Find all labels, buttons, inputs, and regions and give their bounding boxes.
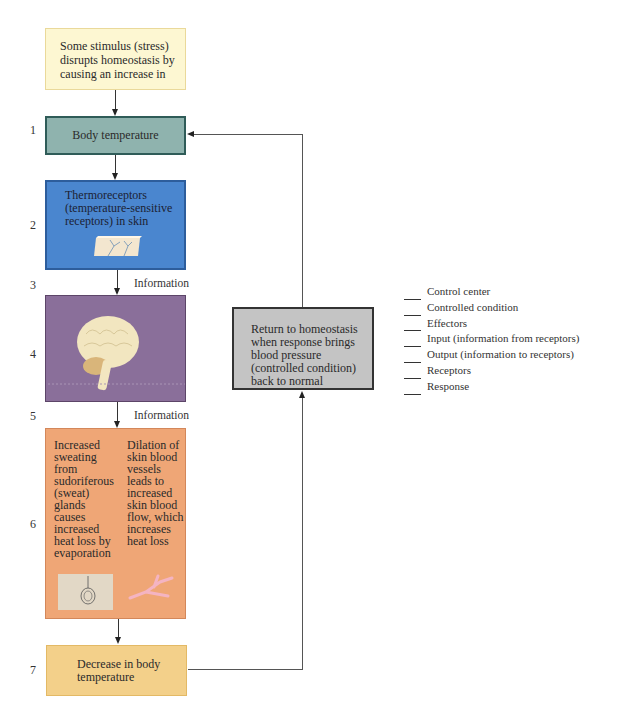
answer-blank[interactable] — [404, 289, 421, 300]
step-number-6: 6 — [30, 517, 36, 532]
homeostasis-text: Return to homeostasis when response brin… — [251, 322, 358, 388]
brain-icon — [46, 296, 187, 403]
arrow-down-icon — [114, 421, 120, 428]
answer-blank[interactable] — [404, 368, 421, 379]
labeling-legend: Control center Controlled condition Effe… — [404, 284, 579, 395]
controlled-condition-box: Body temperature — [45, 116, 186, 155]
connector-line — [115, 90, 116, 110]
step-number-3: 3 — [30, 278, 36, 293]
step-number-4: 4 — [30, 347, 36, 362]
sweat-gland-icon — [58, 574, 113, 610]
answer-blank[interactable] — [404, 305, 421, 316]
blood-vessel-icon — [124, 574, 179, 610]
arrow-up-icon — [299, 391, 305, 398]
step-number-1: 1 — [30, 123, 36, 138]
feedback-line-bottom — [188, 669, 303, 670]
information-label-output: Information — [134, 409, 189, 421]
decrease-label: Decrease in body temperature — [77, 658, 167, 684]
connector-line — [117, 270, 118, 289]
feedback-line-top — [194, 134, 303, 135]
arrow-down-icon — [112, 173, 118, 180]
legend-item[interactable]: Control center — [404, 284, 579, 300]
feedback-line-upper — [302, 134, 303, 307]
step-number-7: 7 — [30, 663, 36, 678]
sweating-text: Increased sweating from sudoriferous (sw… — [54, 439, 118, 559]
feedback-line-lower — [302, 398, 303, 670]
control-center-box — [45, 295, 186, 402]
arrow-down-icon — [115, 637, 121, 644]
arrow-left-icon — [187, 131, 194, 137]
stimulus-text: Some stimulus (stress) disrupts homeosta… — [60, 39, 175, 81]
legend-item[interactable]: Response — [404, 379, 579, 395]
skin-block-icon — [90, 234, 144, 260]
answer-blank[interactable] — [404, 336, 421, 347]
receptors-label: Thermoreceptors (temperature-sensitive r… — [65, 189, 175, 228]
body-temperature-label: Body temperature — [72, 128, 158, 143]
legend-item[interactable]: Output (information to receptors) — [404, 347, 579, 363]
arrow-down-icon — [112, 109, 118, 116]
receptors-box: Thermoreceptors (temperature-sensitive r… — [45, 180, 186, 270]
vasodilation-text: Dilation of skin blood vessels leads to … — [127, 439, 191, 547]
legend-item[interactable]: Effectors — [404, 316, 579, 332]
answer-blank[interactable] — [404, 384, 421, 395]
arrow-down-icon — [114, 288, 120, 295]
connector-line — [115, 155, 116, 174]
legend-item[interactable]: Controlled condition — [404, 300, 579, 316]
answer-blank[interactable] — [404, 352, 421, 363]
response-box: Decrease in body temperature — [46, 645, 187, 696]
legend-item[interactable]: Receptors — [404, 363, 579, 379]
stimulus-box: Some stimulus (stress) disrupts homeosta… — [45, 28, 186, 90]
effectors-box: Increased sweating from sudoriferous (sw… — [45, 428, 186, 619]
legend-item[interactable]: Input (information from receptors) — [404, 331, 579, 347]
connector-line — [118, 619, 119, 638]
step-number-5: 5 — [30, 409, 36, 424]
homeostasis-box: Return to homeostasis when response brin… — [232, 307, 374, 390]
step-number-2: 2 — [30, 218, 36, 233]
information-label-input: Information — [134, 277, 189, 289]
answer-blank[interactable] — [404, 320, 421, 331]
connector-line — [117, 402, 118, 422]
